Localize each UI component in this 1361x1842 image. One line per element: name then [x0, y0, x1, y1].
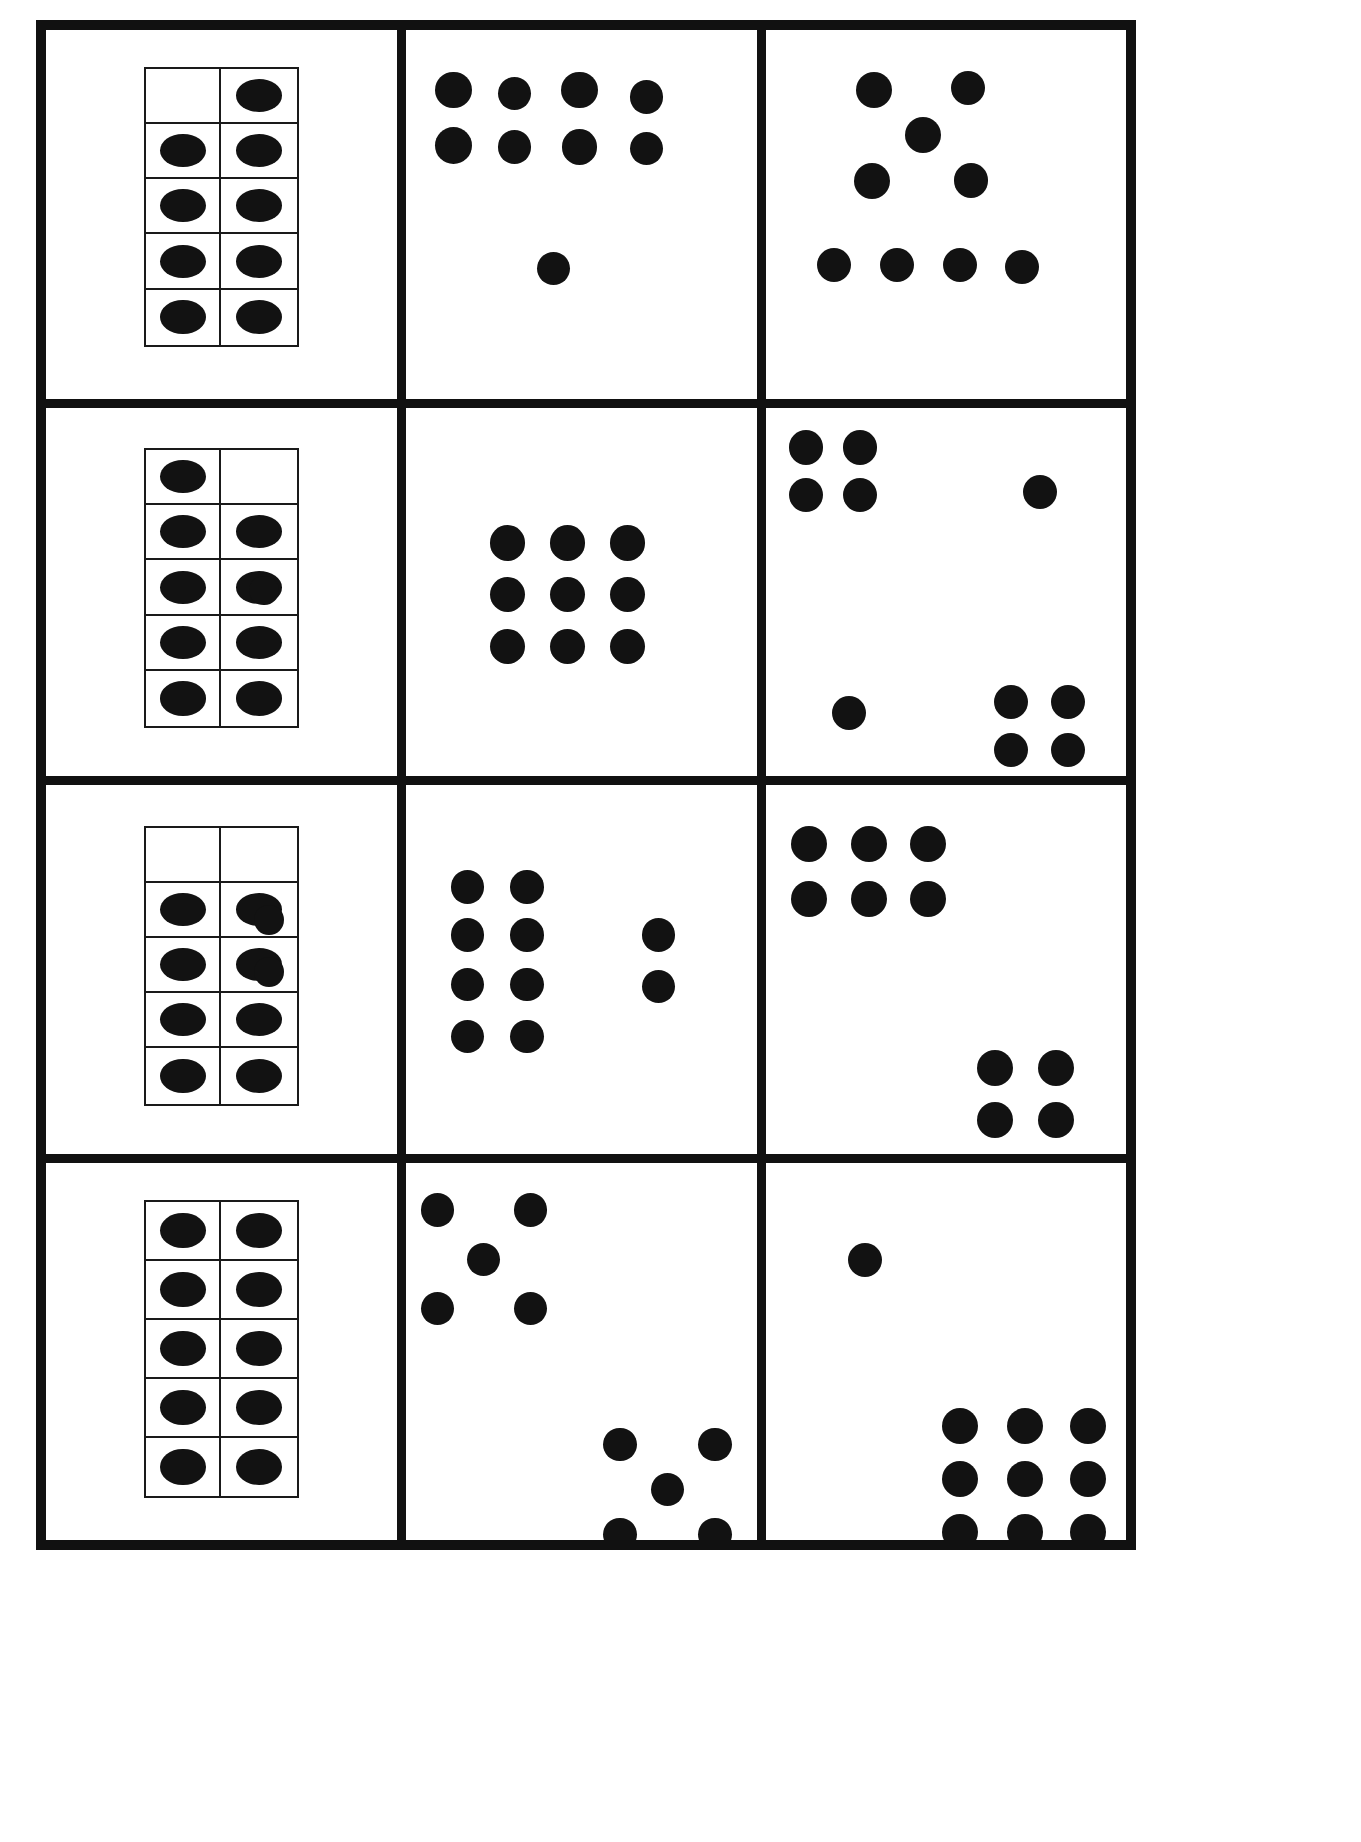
dot	[942, 1461, 978, 1497]
dot	[951, 71, 985, 105]
dot	[451, 918, 484, 951]
ten-frame-dot-empty	[236, 838, 283, 871]
dot	[954, 163, 988, 197]
ten-frame-cell-r3c1	[146, 938, 221, 993]
worksheet-cell-r3c2[interactable]	[406, 785, 766, 1163]
dot	[514, 1193, 547, 1226]
dot	[498, 77, 531, 110]
worksheet-cell-r3c1[interactable]	[46, 785, 406, 1163]
dot	[514, 1292, 547, 1325]
dot	[550, 525, 585, 560]
ten-frame-dot-filled	[236, 1213, 283, 1248]
ten-frame-cell-r4c1	[146, 1379, 221, 1438]
dot	[832, 696, 866, 730]
ten-frame-dot-filled	[236, 1390, 283, 1425]
ten-frame-cell-r5c1	[146, 290, 221, 345]
ten-frame-dot-filled	[236, 1449, 283, 1485]
ten-frame-dot-filled	[160, 1331, 205, 1366]
ten-frame-cell-r5c1	[146, 1438, 221, 1497]
dot	[698, 1518, 731, 1540]
dot	[1023, 475, 1057, 509]
dot	[843, 478, 877, 512]
dot	[910, 881, 946, 917]
dot	[498, 130, 531, 163]
ten-frame-cell-r2c2	[221, 505, 296, 560]
ten-frame-cell-r2c1	[146, 124, 221, 179]
ten-frame-cell-r4c2	[221, 234, 296, 289]
dot	[603, 1518, 636, 1540]
ten-frame-dot-filled	[236, 515, 283, 548]
ten-frame-dot-filled	[160, 515, 205, 548]
ten-frame-dot-filled	[236, 626, 283, 659]
ten-frame-dot-filled	[160, 1272, 205, 1307]
worksheet-cell-r4c3[interactable]	[766, 1163, 1126, 1541]
dot	[610, 629, 645, 664]
dot	[789, 478, 823, 512]
ten-frame-dot-filled	[160, 681, 205, 715]
dot	[848, 1243, 882, 1277]
ten-frame	[144, 1200, 298, 1498]
ten-frame-cell-r4c2	[221, 1379, 296, 1438]
dot	[510, 1020, 543, 1053]
worksheet-cell-r4c2[interactable]	[406, 1163, 766, 1541]
worksheet-cell-r2c2[interactable]	[406, 408, 766, 786]
dot	[550, 577, 585, 612]
dot	[994, 685, 1028, 719]
dot	[1007, 1461, 1043, 1497]
ten-frame-dot-filled	[160, 1449, 205, 1485]
loose-dot	[254, 957, 284, 987]
ten-frame-dot-filled	[160, 245, 205, 278]
dot	[537, 252, 570, 285]
dot	[905, 117, 941, 153]
worksheet-cell-r1c2[interactable]	[406, 30, 766, 408]
ten-frame-cell-r2c1	[146, 505, 221, 560]
ten-frame-dot-filled	[160, 1003, 205, 1036]
ten-frame-dot-filled	[236, 1003, 283, 1036]
ten-frame-cell-r2c1	[146, 883, 221, 938]
dot	[490, 577, 525, 612]
worksheet-cell-r4c1[interactable]	[46, 1163, 406, 1541]
dot	[451, 968, 484, 1001]
ten-frame-dot-filled	[236, 79, 283, 112]
ten-frame-dot-empty	[160, 79, 205, 112]
ten-frame-cell-r4c1	[146, 616, 221, 671]
dot	[1005, 250, 1039, 284]
dot	[843, 430, 877, 464]
ten-frame	[144, 67, 298, 347]
worksheet-cell-r1c1[interactable]	[46, 30, 406, 408]
ten-frame-cell-r3c1	[146, 1320, 221, 1379]
ten-frame-cell-r1c2	[221, 69, 296, 124]
ten-frame-dot-filled	[236, 1331, 283, 1366]
ten-frame-dot-filled	[160, 1213, 205, 1248]
dot	[451, 870, 484, 903]
worksheet-page	[0, 0, 1361, 1842]
ten-frame-dot-filled	[160, 948, 205, 981]
ten-frame-cell-r1c1	[146, 69, 221, 124]
worksheet-cell-r1c3[interactable]	[766, 30, 1126, 408]
dot	[630, 80, 663, 113]
ten-frame-dot-filled	[236, 1272, 283, 1307]
dot	[490, 629, 525, 664]
ten-frame-dot-filled	[236, 245, 283, 278]
ten-frame-dot-filled	[160, 189, 205, 222]
dot	[1038, 1102, 1074, 1138]
worksheet-cell-r2c1[interactable]	[46, 408, 406, 786]
dot	[467, 1243, 500, 1276]
dot	[977, 1050, 1013, 1086]
worksheet-cell-r2c3[interactable]	[766, 408, 1126, 786]
dot	[791, 881, 827, 917]
ten-frame-cell-r1c2	[221, 450, 296, 505]
ten-frame-cell-r5c2	[221, 1438, 296, 1497]
ten-frame-dot-filled	[160, 626, 205, 659]
dot	[880, 248, 914, 282]
ten-frame-dot-filled	[160, 460, 205, 493]
worksheet-cell-grid	[46, 30, 1126, 1540]
ten-frame-cell-r4c1	[146, 234, 221, 289]
ten-frame-cell-r1c1	[146, 828, 221, 883]
dot	[610, 525, 645, 560]
dot	[1038, 1050, 1074, 1086]
dot	[1070, 1514, 1106, 1540]
dot	[562, 129, 597, 164]
loose-dot	[249, 576, 279, 606]
worksheet-cell-r3c3[interactable]	[766, 785, 1126, 1163]
